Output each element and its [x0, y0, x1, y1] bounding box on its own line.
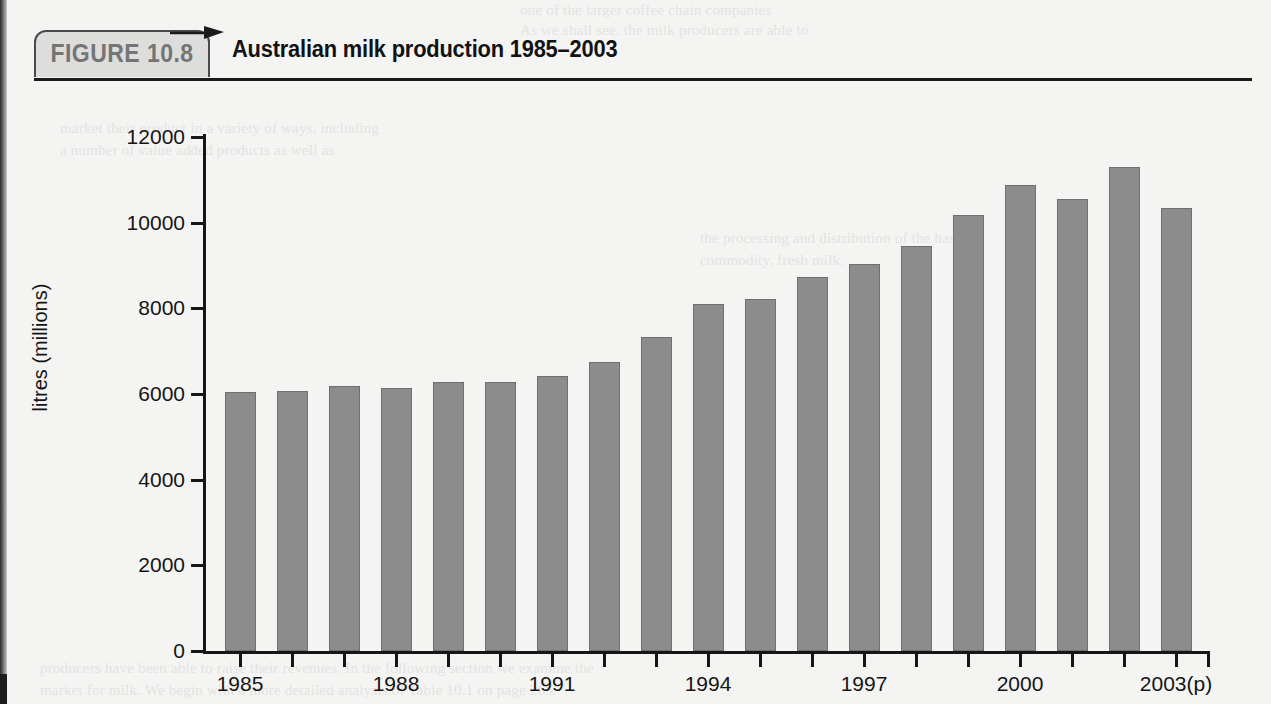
x-axis-tick-label: 1994: [685, 672, 732, 696]
x-axis-tick: [395, 654, 398, 667]
x-axis-tick: [967, 654, 970, 667]
bar: [901, 246, 932, 651]
y-axis-tick: [191, 564, 204, 567]
bar: [745, 299, 776, 651]
y-axis-tick: [191, 222, 204, 225]
y-axis-tick-label: 12000: [127, 125, 185, 149]
y-axis-tick-label: 6000: [138, 382, 185, 406]
x-axis-tick: [239, 654, 242, 667]
x-axis-tick: [915, 654, 918, 667]
bar: [1161, 208, 1192, 651]
x-axis-tick: [499, 654, 502, 667]
y-axis-tick-label: 2000: [138, 553, 185, 577]
figure-header: FIGURE 10.8 Australian milk production 1…: [18, 22, 1256, 92]
figure-title: Australian milk production 1985–2003: [232, 36, 617, 63]
x-axis-tick: [1071, 654, 1074, 667]
bar-chart: litres (millions) 1200010000800060004000…: [18, 86, 1256, 682]
arrow-icon: [168, 24, 228, 40]
x-axis-tick: [863, 654, 866, 667]
y-axis-tick: [191, 307, 204, 310]
x-axis-tick: [759, 654, 762, 667]
x-axis-tick-label: 1985: [217, 672, 264, 696]
bar: [797, 277, 828, 651]
bar: [277, 391, 308, 651]
x-axis-end-tick: [1207, 654, 1210, 667]
y-axis-tick-label: 0: [173, 639, 185, 663]
bar: [433, 382, 464, 651]
ghost-text-top-1: one of the larger coffee chain companies: [520, 2, 772, 19]
y-axis-tick: [191, 479, 204, 482]
y-axis-tick: [191, 650, 204, 653]
bar: [693, 304, 724, 651]
figure-rule: [34, 78, 1252, 81]
bar: [589, 362, 620, 651]
x-axis-tick: [343, 654, 346, 667]
bar: [849, 264, 880, 651]
bar: [1005, 185, 1036, 651]
bar: [537, 376, 568, 651]
chart-plot-area: litres (millions) 1200010000800060004000…: [18, 86, 1256, 682]
x-axis-tick: [447, 654, 450, 667]
bar: [1109, 167, 1140, 651]
x-axis-tick: [811, 654, 814, 667]
ghost-text-bottom-2: market for milk. We begin with a more de…: [40, 682, 557, 699]
y-axis-title: litres (millions): [29, 198, 52, 498]
y-axis-tick-label: 8000: [138, 296, 185, 320]
x-axis-tick-label: 1991: [529, 672, 576, 696]
bar: [225, 392, 256, 651]
page-edge-shadow-bottom: [0, 674, 7, 704]
x-axis-tick-label: 1988: [373, 672, 420, 696]
figure-block: FIGURE 10.8 Australian milk production 1…: [18, 22, 1256, 682]
x-axis-tick: [655, 654, 658, 667]
bar: [381, 388, 412, 651]
x-axis-tick: [1019, 654, 1022, 667]
x-axis-tick-label: 2000: [997, 672, 1044, 696]
x-axis-tick: [707, 654, 710, 667]
x-axis-tick-label: 2003(p): [1140, 672, 1212, 696]
x-axis-tick-label: 1997: [841, 672, 888, 696]
bar: [329, 386, 360, 651]
page-edge-shadow: [0, 0, 7, 704]
bar: [485, 382, 516, 651]
x-axis-tick: [1123, 654, 1126, 667]
x-axis-tick: [1175, 654, 1178, 667]
bar: [641, 337, 672, 651]
bar: [953, 215, 984, 651]
y-axis-tick-label: 10000: [127, 211, 185, 235]
x-axis-tick: [551, 654, 554, 667]
bar: [1057, 199, 1088, 651]
x-axis-tick: [291, 654, 294, 667]
y-axis-tick: [191, 393, 204, 396]
y-axis-tick-label: 4000: [138, 468, 185, 492]
y-axis-tick: [191, 136, 204, 139]
x-axis-tick: [603, 654, 606, 667]
